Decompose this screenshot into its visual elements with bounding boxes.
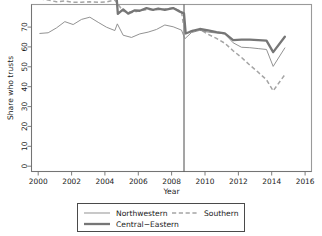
- x-tick-label: 2012: [229, 177, 248, 186]
- x-tick-label: 2008: [162, 177, 181, 186]
- chart-legend: Northwestern Central−Eastern Southern: [78, 204, 245, 232]
- x-axis-title: Year: [162, 187, 180, 196]
- x-tick-label: 2000: [29, 177, 48, 186]
- y-tick-label: 10: [20, 141, 29, 151]
- plot-frame: [32, 5, 312, 172]
- series-line-southern: [40, 0, 285, 91]
- y-tick-label: 30: [20, 102, 29, 112]
- chart-container: 0 10 20 30 40 50 60 70 Share who trusts …: [0, 0, 322, 236]
- y-tick-label: 20: [20, 121, 29, 131]
- series-line-central-eastern: [117, 0, 285, 52]
- legend-label-northwestern: Northwestern: [116, 209, 168, 218]
- y-axis-title: Share who trusts: [6, 56, 15, 120]
- series-line-northwestern: [40, 17, 285, 66]
- x-tick-label: 2002: [62, 177, 81, 186]
- y-tick-label: 70: [20, 22, 29, 32]
- x-tick-label: 2004: [95, 177, 114, 186]
- y-tick-label: 50: [20, 62, 29, 72]
- x-tick-label: 2010: [196, 177, 215, 186]
- x-tick-label: 2006: [129, 177, 148, 186]
- y-tick-label: 40: [20, 82, 29, 92]
- y-tick-label: 0: [20, 164, 29, 169]
- legend-label-central-eastern: Central−Eastern: [116, 220, 179, 229]
- legend-label-southern: Southern: [204, 209, 239, 218]
- y-axis-ticks: 0 10 20 30 40 50 60 70: [20, 22, 32, 168]
- x-tick-label: 2014: [262, 177, 281, 186]
- line-chart-figure: 0 10 20 30 40 50 60 70 Share who trusts …: [0, 0, 322, 236]
- y-tick-label: 60: [20, 42, 29, 52]
- x-tick-label: 2016: [296, 177, 315, 186]
- x-axis-ticks: 2000 2002 2004 2006 2008 2010 2012 2014 …: [29, 172, 315, 186]
